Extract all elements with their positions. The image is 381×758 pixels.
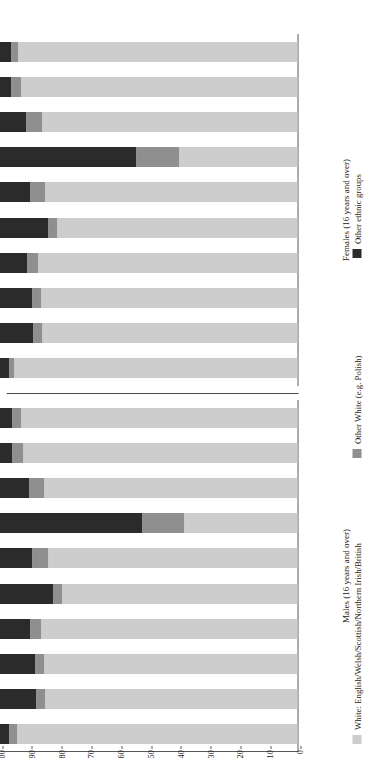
legend-label-white-british: White: English/Welsh/Scottish/Northern I… [352,543,362,730]
bar-segment-1 [26,112,42,132]
bar-segment-2 [0,112,26,132]
legend-swatch-other-white [352,449,361,458]
bar[interactable] [0,112,297,132]
bar-segment-1 [27,253,37,273]
bar-segment-2 [0,548,32,568]
bar[interactable] [0,42,297,62]
bar-segment-0 [57,218,297,238]
bar-segment-2 [0,513,142,533]
bar[interactable] [0,724,297,744]
tick-mark [300,746,301,749]
panel-title-males: Males (16 years and over) [340,400,350,752]
bar-segment-2 [0,182,30,202]
legend-swatch-white-british [352,735,361,744]
panel-males-bars: North EastNorth WestYorkshire and the Hu… [0,400,298,752]
bar-segment-2 [0,478,29,498]
legend-label-other-ethnic: Other ethnic groups [352,174,362,244]
bar-segment-2 [0,584,53,604]
bar-segment-0 [62,584,297,604]
bar-segment-0 [44,654,297,674]
bar-segment-2 [0,323,33,343]
bar[interactable] [0,689,297,709]
bar-segment-1 [30,182,45,202]
bar-segment-2 [0,654,35,674]
bar-segment-2 [0,358,9,378]
legend-item-white-british[interactable]: White: English/Welsh/Scottish/Northern I… [352,543,362,744]
bar-segment-0 [41,619,297,639]
bar-segment-0 [45,182,297,202]
bar-segment-2 [0,288,32,308]
bar-segment-2 [0,619,30,639]
bar-segment-1 [29,478,44,498]
panel-title-females: Females (16 years and over) [340,34,350,386]
bar-segment-2 [0,147,136,167]
bar[interactable] [0,619,297,639]
panel-divider [6,393,298,394]
bar[interactable] [0,513,297,533]
bar-segment-2 [0,724,9,744]
bar-segment-0 [18,42,297,62]
bar-segment-0 [179,147,297,167]
panel-females-bars: North EastNorth WestYorkshire and the Hu… [0,34,298,386]
bar-segment-1 [142,513,184,533]
bar-segment-1 [11,42,18,62]
bar-segment-2 [0,689,36,709]
bar[interactable] [0,408,297,428]
bar-segment-1 [9,724,16,744]
bar-segment-0 [21,408,297,428]
legend-label-other-white: Other White (e.g. Polish) [352,355,362,444]
bar[interactable] [0,182,297,202]
bar-segment-2 [0,253,27,273]
bar[interactable] [0,77,297,97]
bar-segment-2 [0,77,11,97]
panel-females: North EastNorth WestYorkshire and the Hu… [0,34,298,386]
bar[interactable] [0,218,297,238]
bar-segment-0 [48,548,297,568]
bar[interactable] [0,443,297,463]
bar-segment-1 [33,323,42,343]
bar-segment-1 [9,358,13,378]
bar-segment-0 [42,323,297,343]
panel-males: North EastNorth WestYorkshire and the Hu… [0,400,298,752]
bar-segment-0 [42,112,297,132]
bar-segment-1 [53,584,62,604]
chart-canvas: 0102030405060708090100 % North EastNorth… [0,0,381,758]
bar[interactable] [0,478,297,498]
bar-segment-0 [14,358,297,378]
legend-swatch-other-ethnic [352,249,361,258]
bar-segment-0 [41,288,297,308]
bar-segment-0 [23,443,297,463]
bar-segment-1 [30,619,40,639]
bar[interactable] [0,147,297,167]
bar[interactable] [0,288,297,308]
chart-rotation-wrapper: 0102030405060708090100 % North EastNorth… [0,0,381,758]
bar-segment-1 [36,689,45,709]
bar-segment-1 [12,443,22,463]
bar-segment-2 [0,443,12,463]
bar-segment-1 [136,147,179,167]
legend-item-other-ethnic[interactable]: Other ethnic groups [352,174,362,258]
bar[interactable] [0,323,297,343]
bar-segment-0 [21,77,297,97]
bar-segment-2 [0,408,12,428]
bar-segment-0 [38,253,297,273]
bar-segment-1 [32,288,41,308]
bar[interactable] [0,253,297,273]
bar-segment-2 [0,42,11,62]
bar[interactable] [0,654,297,674]
bar-segment-1 [11,77,21,97]
bar[interactable] [0,548,297,568]
bar-segment-0 [17,724,297,744]
bar[interactable] [0,584,297,604]
bar-segment-0 [44,478,297,498]
bar-segment-1 [35,654,44,674]
bar-segment-2 [0,218,48,238]
bar-segment-1 [32,548,48,568]
bar-segment-0 [45,689,297,709]
legend-item-other-white[interactable]: Other White (e.g. Polish) [352,355,362,458]
bar-segment-1 [48,218,57,238]
bar-segment-1 [12,408,21,428]
bar-segment-0 [184,513,297,533]
bar[interactable] [0,358,297,378]
